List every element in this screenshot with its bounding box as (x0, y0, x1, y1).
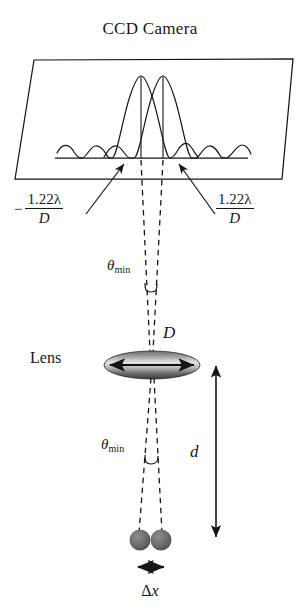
lower-ray-right (154, 378, 162, 533)
lens-element (104, 351, 200, 379)
ccd-sensor-plane (15, 59, 293, 179)
formula-left-minus-sign: − (14, 201, 22, 218)
diagram-canvas (0, 0, 300, 616)
label-theta-min-lower: θmin (101, 437, 125, 454)
point-source-left (130, 530, 151, 551)
label-theta-min-upper: θmin (107, 258, 131, 275)
formula-negative-resolution-limit: − 1.22λ D (14, 191, 63, 226)
theta-subscript-upper: min (114, 264, 130, 275)
theta-subscript-lower: min (108, 443, 124, 454)
lower-angle-arc (145, 455, 158, 464)
lower-ray-bundle (139, 378, 162, 533)
formula-left-numerator: 1.22λ (25, 191, 63, 208)
label-lens-diameter: D (163, 324, 175, 341)
upper-ray-bundle (141, 160, 163, 352)
formula-right-denominator: D (216, 208, 254, 226)
formula-left-fraction: 1.22λ D (25, 191, 63, 226)
upper-ray-left (141, 160, 150, 352)
label-object-distance: d (190, 443, 199, 460)
upper-ray-right (153, 160, 163, 352)
formula-left-denominator: D (25, 208, 63, 226)
label-lens: Lens (30, 350, 61, 366)
formula-positive-resolution-limit: 1.22λ D (216, 191, 254, 226)
formula-right-fraction: 1.22λ D (216, 191, 254, 226)
page-title: CCD Camera (0, 20, 300, 37)
delta-symbol: Δ (141, 582, 151, 599)
formula-right-numerator: 1.22λ (216, 191, 254, 208)
point-source-right (151, 530, 172, 551)
label-source-separation: Δx (0, 583, 300, 599)
point-source-pair (130, 530, 172, 551)
resolution-limit-diagram: CCD Camera − 1.22λ D 1.22λ D θmin Lens D… (0, 0, 300, 616)
separation-variable: x (152, 582, 159, 599)
